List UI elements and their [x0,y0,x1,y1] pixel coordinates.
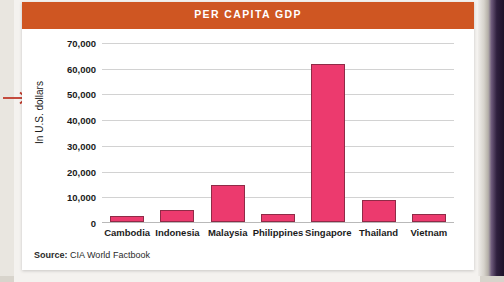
source-label: Source: [34,250,68,260]
gridline [102,120,454,121]
bar [311,64,345,222]
bar [211,185,245,222]
gridline [102,197,454,198]
y-axis-tick-label: 60,000 [44,63,96,74]
x-axis-tick-label: Philippines [253,227,304,238]
y-axis-tick-label: 10,000 [44,192,96,203]
x-axis-tick-label: Thailand [359,227,398,238]
chart-title-bar: PER CAPITA GDP [22,2,474,29]
bar [412,214,446,222]
page-edge-strip [488,0,504,276]
gridline [102,43,454,44]
bar [362,200,396,222]
source-note: Source: CIA World Factbook [34,250,150,260]
plot-area: In U.S. dollars 70,00060,00050,00040,000… [22,29,474,244]
bar [110,216,144,222]
gridline [102,69,454,70]
chart-title: PER CAPITA GDP [22,8,474,20]
gridline [102,94,454,95]
x-axis-tick-label: Malaysia [208,227,248,238]
gridline [102,172,454,173]
bar [160,210,194,222]
y-axis-tick-label: 40,000 [44,115,96,126]
y-axis-tick-label: 0 [44,218,96,229]
y-axis-tick-labels: 70,00060,00050,00040,00030,00020,00010,0… [34,29,96,244]
y-axis-tick-label: 30,000 [44,140,96,151]
x-axis-line [102,222,454,223]
bar [261,214,295,222]
chart-figure: PER CAPITA GDP In U.S. dollars 70,00060,… [22,2,474,270]
x-axis-tick-label: Singapore [305,227,351,238]
source-value: CIA World Factbook [70,250,150,260]
y-axis-tick-label: 50,000 [44,89,96,100]
page-edge-highlight [478,0,488,276]
y-axis-tick-label: 70,000 [44,38,96,49]
y-axis-tick-label: 20,000 [44,166,96,177]
x-axis-tick-labels: CambodiaIndonesiaMalaysiaPhilippinesSing… [102,225,454,245]
x-axis-tick-label: Indonesia [155,227,199,238]
plot-bars-region [102,43,454,223]
x-axis-tick-label: Vietnam [410,227,447,238]
gridline [102,146,454,147]
x-axis-tick-label: Cambodia [104,227,150,238]
